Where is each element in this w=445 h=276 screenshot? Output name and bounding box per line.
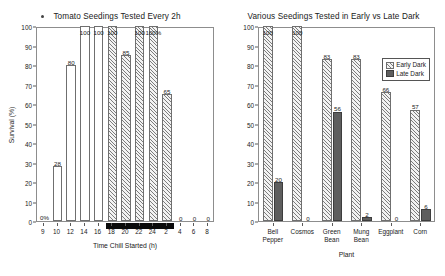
x-tick-label: Cosmos: [291, 228, 314, 236]
bar: [53, 166, 63, 221]
x-tick-label: 22: [135, 228, 142, 235]
y-tick-label: 40: [247, 141, 254, 148]
x-tick-mark: [166, 223, 167, 226]
bar: [162, 94, 172, 221]
x-tick-label: 6: [192, 228, 196, 235]
bar: [108, 26, 118, 221]
bar-value-label: 66: [382, 86, 389, 93]
bar-value-label: 0: [306, 215, 309, 222]
bar-value-label: 100: [135, 29, 145, 36]
legend: Early Dark Late Dark: [382, 58, 430, 81]
bar-value-label: 100: [80, 29, 90, 36]
x-tick-mark: [111, 223, 112, 226]
left-plot-area: 0%288010010010085100100%65000: [36, 27, 214, 222]
x-tick-label: 16: [94, 228, 101, 235]
bar-value-label: 83: [323, 53, 330, 60]
left-x-axis: Time Chill Started (h) 91012141618202224…: [36, 223, 214, 253]
figure-canvas: Tomato Seedings Tested Every 2h Survival…: [0, 0, 445, 276]
y-tick-label: 80: [25, 63, 32, 70]
bar: [66, 65, 76, 221]
y-tick-label: 0: [250, 219, 254, 226]
bar: [149, 26, 159, 221]
left-chart-panel: Tomato Seedings Tested Every 2h Survival…: [0, 0, 222, 276]
x-tick-label: Corn: [413, 228, 427, 236]
right-x-axis-label: Plant: [258, 251, 435, 258]
bar-value-label: 100%: [145, 29, 161, 36]
bar: [274, 182, 284, 221]
bar-value-label: 0%: [40, 214, 49, 221]
bar: [362, 217, 372, 221]
bar-value-label: 0: [395, 215, 398, 222]
x-tick-label: 24: [149, 228, 156, 235]
right-x-axis: Plant BellPepperCosmosGreenBeanMungBeanE…: [258, 223, 435, 253]
x-tick-label: 14: [80, 228, 87, 235]
bar-value-label: 6: [424, 203, 427, 210]
bar: [421, 209, 431, 221]
bar-value-label: 0: [206, 215, 209, 222]
legend-swatch-late-dark: [386, 70, 394, 77]
bar-value-label: 83: [353, 53, 360, 60]
x-tick-label: 20: [121, 228, 128, 235]
left-chart-title: Tomato Seedings Tested Every 2h: [0, 12, 222, 21]
y-tick-label: 50: [25, 121, 32, 128]
bar: [410, 110, 420, 221]
right-plot-area: 1002010008356832660576 Early Dark Late D…: [258, 27, 435, 222]
bar: [94, 26, 104, 221]
x-tick-mark: [207, 223, 208, 226]
x-tick-mark: [332, 223, 333, 226]
x-tick-mark: [98, 223, 99, 226]
x-tick-mark: [273, 223, 274, 226]
y-tick-label: 100: [21, 24, 32, 31]
bar: [333, 112, 343, 221]
y-tick-label: 20: [247, 180, 254, 187]
bar: [322, 59, 332, 221]
x-tick-mark: [152, 223, 153, 226]
x-tick-label: 9: [41, 228, 45, 235]
bar-value-label: 28: [54, 160, 61, 167]
x-tick-mark: [139, 223, 140, 226]
bar: [263, 26, 273, 221]
y-tick-label: 0: [28, 219, 32, 226]
x-tick-label: GreenBean: [323, 228, 341, 243]
y-tick-label: 80: [247, 63, 254, 70]
bar-value-label: 20: [275, 176, 282, 183]
x-tick-label: MungBean: [353, 228, 369, 243]
legend-item-early-dark: Early Dark: [386, 61, 426, 70]
x-tick-label: 10: [53, 228, 60, 235]
bar-value-label: 80: [68, 59, 75, 66]
y-tick-label: 50: [247, 121, 254, 128]
bar-value-label: 2: [365, 211, 368, 218]
x-tick-mark: [84, 223, 85, 226]
x-tick-label: BellPepper: [262, 228, 283, 243]
y-tick-label: 70: [25, 82, 32, 89]
bar-value-label: 85: [123, 49, 130, 56]
bar-value-label: 100: [263, 29, 273, 36]
x-tick-label: 4: [178, 228, 182, 235]
y-tick-label: 10: [247, 199, 254, 206]
y-tick-label: 90: [25, 43, 32, 50]
left-y-axis: 0102030405060708090100: [2, 27, 36, 222]
left-x-axis-label: Time Chill Started (h): [36, 242, 214, 249]
legend-label-late-dark: Late Dark: [396, 70, 424, 79]
x-tick-mark: [420, 223, 421, 226]
x-tick-mark: [361, 223, 362, 226]
bar-value-label: 100: [292, 29, 302, 36]
x-tick-mark: [193, 223, 194, 226]
y-tick-label: 100: [243, 24, 254, 31]
x-tick-mark: [70, 223, 71, 226]
x-tick-label: 12: [67, 228, 74, 235]
right-y-axis: 0102030405060708090100: [224, 27, 258, 222]
y-tick-label: 60: [25, 102, 32, 109]
bar: [381, 92, 391, 221]
bar-value-label: 0: [179, 215, 182, 222]
legend-swatch-early-dark: [386, 62, 394, 69]
y-tick-label: 60: [247, 102, 254, 109]
x-tick-mark: [180, 223, 181, 226]
y-tick-label: 30: [25, 160, 32, 167]
bar: [135, 26, 145, 221]
bar-value-label: 0: [193, 215, 196, 222]
bar-value-label: 65: [164, 88, 171, 95]
left-bar-group: 0%288010010010085100100%65000: [37, 28, 213, 221]
y-tick-label: 90: [247, 43, 254, 50]
y-tick-label: 40: [25, 141, 32, 148]
